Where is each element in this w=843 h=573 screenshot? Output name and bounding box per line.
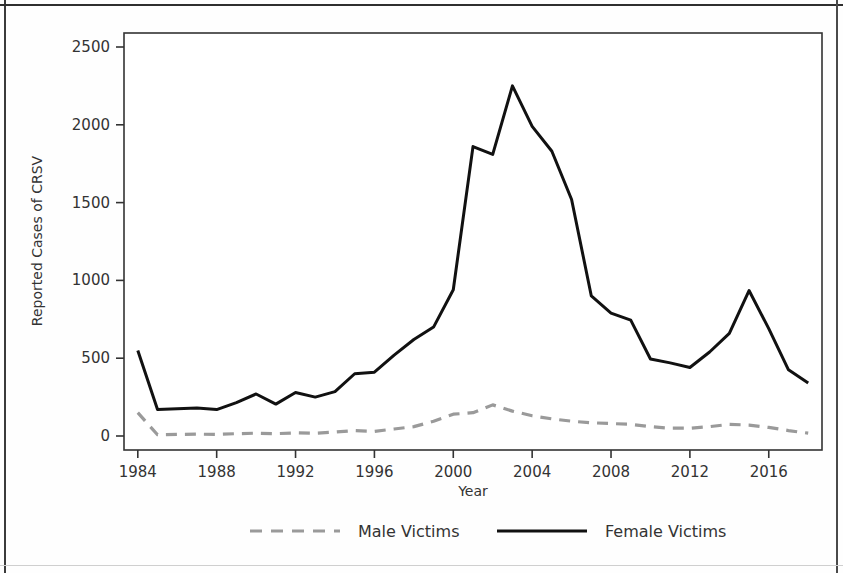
x-tick-label: 2016 — [750, 463, 788, 481]
y-axis-label: Reported Cases of CRSV — [29, 155, 45, 326]
x-tick-label: 1988 — [198, 463, 236, 481]
x-tick-label: 2000 — [434, 463, 472, 481]
x-tick-label: 2004 — [513, 463, 551, 481]
y-tick-label: 1000 — [72, 271, 110, 289]
y-tick-label: 2000 — [72, 116, 110, 134]
x-tick-label: 1996 — [355, 463, 393, 481]
y-axis-ticks: 05001000150020002500 — [72, 38, 124, 445]
chart-canvas: 05001000150020002500 1984198819921996200… — [0, 0, 843, 573]
legend-label-female-victims: Female Victims — [605, 522, 726, 541]
legend-label-male-victims: Male Victims — [358, 522, 459, 541]
y-tick-label: 2500 — [72, 38, 110, 56]
x-tick-label: 2012 — [671, 463, 709, 481]
line-chart-figure: 05001000150020002500 1984198819921996200… — [0, 0, 843, 573]
x-tick-label: 1984 — [119, 463, 157, 481]
figure-page: 05001000150020002500 1984198819921996200… — [0, 0, 843, 573]
plot-area-frame — [124, 33, 822, 450]
x-tick-label: 1992 — [276, 463, 314, 481]
x-axis-label: Year — [457, 483, 488, 499]
x-tick-label: 2008 — [592, 463, 630, 481]
x-axis-ticks: 198419881992199620002004200820122016 — [119, 450, 788, 481]
chart-legend: Male VictimsFemale Victims — [250, 522, 726, 541]
y-tick-label: 1500 — [72, 194, 110, 212]
y-tick-label: 500 — [81, 349, 110, 367]
y-tick-label: 0 — [100, 427, 110, 445]
